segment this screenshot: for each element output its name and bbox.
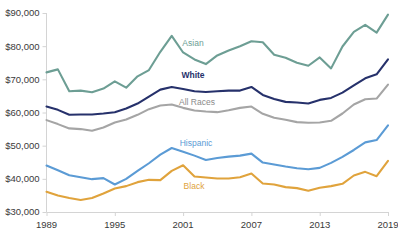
x-tick-labels: 198919952001200720132019 [36, 219, 398, 230]
y-tick-label: $40,000 [5, 173, 39, 184]
series-label-all-races: All Races [179, 97, 215, 107]
series-line-asian [47, 15, 389, 93]
series-line-hispanic [47, 125, 389, 184]
x-tick-label: 2001 [173, 219, 194, 230]
y-axis-group: $90,000$80,000$70,000$60,000$50,000$40,0… [5, 7, 46, 217]
y-tick-label: $80,000 [5, 41, 39, 52]
series-label-hispanic: Hispanic [180, 138, 213, 148]
series-line-black [47, 161, 389, 200]
y-tick-label: $50,000 [5, 140, 39, 151]
x-tick-label: 2019 [377, 219, 398, 230]
x-tick-label: 1989 [36, 219, 57, 230]
y-tick-labels: $90,000$80,000$70,000$60,000$50,000$40,0… [5, 7, 39, 217]
series-lines [47, 15, 389, 200]
series-label-asian: Asian [182, 38, 204, 48]
x-tick-label: 2007 [241, 219, 262, 230]
chart-canvas: $90,000$80,000$70,000$60,000$50,000$40,0… [0, 0, 398, 235]
series-label-white: White [181, 70, 204, 80]
series-label-black: Black [184, 181, 206, 191]
y-tick-label: $90,000 [5, 7, 39, 18]
y-tick-label: $30,000 [5, 206, 39, 217]
series-line-white [47, 59, 389, 114]
x-tick-label: 2013 [309, 219, 330, 230]
income-line-chart: $90,000$80,000$70,000$60,000$50,000$40,0… [0, 0, 398, 235]
x-tick-label: 1995 [104, 219, 125, 230]
y-tick-label: $70,000 [5, 74, 39, 85]
x-axis-group: 198919952001200720132019 [36, 212, 398, 230]
y-tick-marks [43, 14, 47, 213]
y-tick-label: $60,000 [5, 107, 39, 118]
